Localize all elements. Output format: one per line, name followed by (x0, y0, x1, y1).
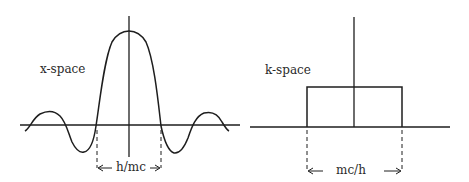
diagram-canvas: x-space h/mc k-space mc/h (0, 0, 469, 182)
sinc-curve (25, 31, 229, 153)
k-space-width-label: mc/h (336, 163, 366, 177)
x-space-label: x-space (40, 62, 85, 76)
x-space-panel: x-space h/mc (20, 16, 240, 174)
k-space-label: k-space (265, 63, 311, 77)
k-space-panel: k-space mc/h (250, 17, 450, 177)
x-space-width-label: h/mc (116, 160, 146, 174)
